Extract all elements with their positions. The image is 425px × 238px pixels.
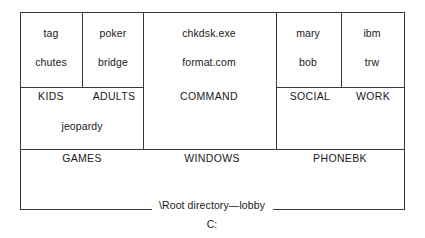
- root-box-left-edge: [20, 12, 21, 210]
- file-chutes: chutes: [35, 57, 67, 68]
- dir-work: WORK: [351, 91, 395, 102]
- dir-social: SOCIAL: [285, 91, 336, 102]
- root-box-right-edge: [404, 12, 405, 210]
- rule-level2-directories: [21, 149, 404, 150]
- divider-social-work: [341, 12, 342, 88]
- divider-windows-phonebk: [276, 12, 277, 150]
- dir-windows: WINDOWS: [179, 153, 245, 164]
- dir-kids: KIDS: [33, 91, 69, 102]
- rule-kids-adults: [21, 87, 143, 88]
- rule-social-work: [277, 87, 404, 88]
- dir-command: COMMAND: [180, 91, 238, 102]
- root-box-bottom-edge-right: [273, 209, 405, 210]
- file-tag: tag: [44, 28, 59, 39]
- file-poker: poker: [100, 28, 127, 39]
- directory-tree-diagram: tag chutes KIDS poker bridge ADULTS jeop…: [0, 0, 425, 238]
- root-box-top-edge: [20, 12, 405, 13]
- file-bob: bob: [299, 57, 317, 68]
- file-trw: trw: [365, 57, 379, 68]
- file-format-com: format.com: [182, 57, 236, 68]
- drive-letter-label: C:: [207, 219, 218, 230]
- dir-games: GAMES: [57, 153, 107, 164]
- divider-kids-adults: [82, 12, 83, 88]
- divider-games-windows: [143, 12, 144, 150]
- file-mary: mary: [296, 28, 320, 39]
- file-ibm: ibm: [363, 28, 380, 39]
- file-chkdsk-exe: chkdsk.exe: [182, 28, 236, 39]
- dir-adults: ADULTS: [88, 91, 141, 102]
- root-box-bottom-edge-left: [20, 209, 152, 210]
- root-directory-label: \Root directory—lobby: [154, 200, 270, 211]
- file-jeopardy: jeopardy: [61, 121, 102, 132]
- file-bridge: bridge: [98, 57, 128, 68]
- dir-phonebk: PHONEBK: [308, 153, 372, 164]
